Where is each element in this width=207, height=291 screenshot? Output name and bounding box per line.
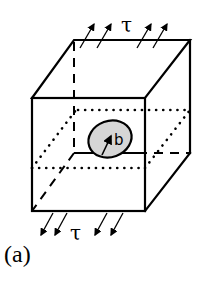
arrow-up-icon bbox=[137, 24, 151, 48]
top-stress-label: τ bbox=[121, 13, 132, 37]
arrow-down-icon bbox=[41, 213, 53, 235]
arrow-down-icon bbox=[55, 213, 67, 235]
arrow-down-icon bbox=[111, 213, 123, 235]
plane-right-edge bbox=[145, 110, 190, 168]
cube-top-face bbox=[32, 40, 190, 98]
arrow-up-icon bbox=[80, 24, 94, 48]
panel-label: (a) bbox=[4, 241, 31, 267]
cube-bottom-right-edge bbox=[145, 153, 190, 211]
bottom-stress-arrows: τ bbox=[41, 213, 123, 245]
cube-front-face bbox=[32, 98, 145, 211]
penny-crack: b bbox=[74, 115, 146, 164]
arrow-up-icon bbox=[153, 24, 167, 48]
top-stress-arrows: τ bbox=[80, 13, 167, 48]
hidden-bottom-left-edge bbox=[32, 153, 74, 211]
arrow-down-icon bbox=[95, 213, 107, 235]
cube-diagram: b τ τ (a) bbox=[0, 0, 207, 291]
arrow-up-icon bbox=[97, 24, 111, 48]
bottom-stress-label: τ bbox=[70, 221, 81, 245]
crack-radius-label: b bbox=[114, 131, 124, 149]
